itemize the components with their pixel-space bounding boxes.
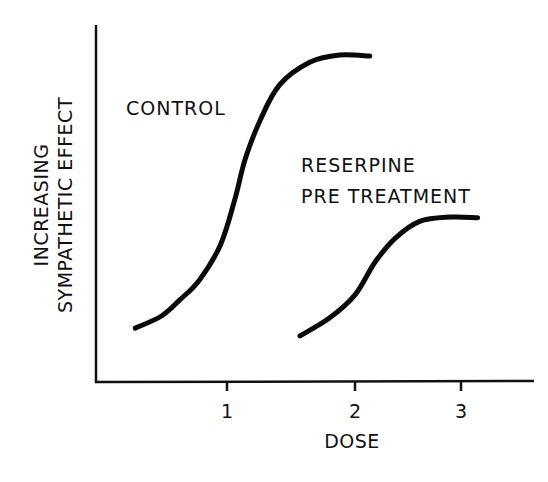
x-tick-label-1: 1 xyxy=(221,400,233,422)
y-axis-title: INCREASING SYMPATHETIC EFFECT xyxy=(30,97,76,313)
dose-response-chart: 123 DOSE INCREASING SYMPATHETIC EFFECT C… xyxy=(0,0,548,482)
x-ticks: 123 xyxy=(221,382,467,422)
y-axis-title-line-2: SYMPATHETIC EFFECT xyxy=(54,97,76,313)
x-axis-title: DOSE xyxy=(324,430,380,452)
control-label: CONTROL xyxy=(126,97,226,119)
x-tick-label-3: 3 xyxy=(455,400,467,422)
x-axis xyxy=(95,381,534,382)
reserpine-label-line-1: RESERPINE xyxy=(301,154,416,176)
x-tick-label-2: 2 xyxy=(349,400,361,422)
y-axis-title-line-1: INCREASING xyxy=(30,144,52,267)
reserpine-pretreatment-curve xyxy=(300,217,478,336)
reserpine-label-line-2: PRE TREATMENT xyxy=(301,185,471,207)
